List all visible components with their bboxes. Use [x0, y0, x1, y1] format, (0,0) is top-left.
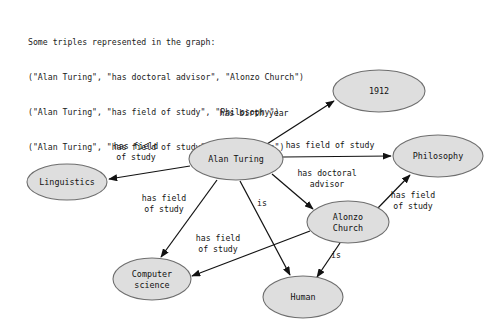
node-label: AlonzoChurch: [333, 211, 363, 232]
edge-label: is: [257, 198, 267, 208]
edge-label: has doctoraladvisor: [297, 167, 356, 188]
node-label: Computerscience: [132, 268, 172, 289]
graph-node-year-1912[interactable]: 1912: [333, 70, 425, 112]
node-label: Alan Turing: [208, 154, 263, 164]
graph-edge: [109, 166, 190, 179]
graph-node-human[interactable]: Human: [263, 276, 343, 318]
edge-label: is: [331, 250, 341, 260]
edge-label: has field of study: [286, 140, 375, 150]
graph-node-alonzo-church[interactable]: AlonzoChurch: [307, 201, 389, 243]
graph-node-linguistics[interactable]: Linguistics: [27, 164, 107, 200]
graph-edge: [272, 174, 313, 209]
edge-label: has birth year: [219, 108, 288, 118]
graph-node-alan-turing[interactable]: Alan Turing: [189, 138, 283, 180]
graph-node-philosophy[interactable]: Philosophy: [393, 135, 483, 177]
graph-edge: [240, 181, 290, 275]
edge-label: has fieldof study: [196, 232, 240, 253]
edges-layer: [109, 101, 410, 277]
node-label: Linguistics: [39, 177, 94, 187]
graph-edge: [317, 243, 340, 277]
node-label: Philosophy: [413, 151, 463, 161]
knowledge-graph: Alan Turing1912PhilosophyLinguisticsAlon…: [0, 0, 495, 328]
diagram-canvas: Some triples represented in the graph: (…: [0, 0, 495, 328]
graph-node-computer-science[interactable]: Computerscience: [113, 258, 191, 300]
edge-labels-layer: has birth yearhas field of studyhas fiel…: [114, 108, 435, 260]
edge-label: has fieldof study: [391, 189, 435, 210]
node-label: Human: [290, 292, 315, 302]
graph-edge: [283, 156, 391, 157]
node-label: 1912: [369, 86, 389, 96]
edge-label: has fieldof study: [114, 140, 158, 161]
edge-label: has fieldof study: [142, 192, 186, 213]
